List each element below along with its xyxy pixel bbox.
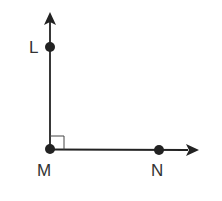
label-L: L (29, 38, 38, 57)
point-L (45, 42, 55, 52)
label-N: N (151, 161, 163, 180)
point-N (154, 145, 164, 155)
label-M: M (37, 161, 51, 180)
ray-MN (50, 150, 188, 151)
point-M (45, 144, 55, 154)
right-angle-diagram: L M N (0, 0, 222, 201)
